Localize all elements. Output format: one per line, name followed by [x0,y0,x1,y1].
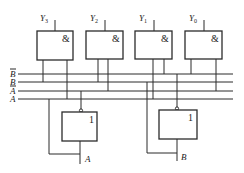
output-subscript: 2 [95,18,98,24]
and-gate-y0: & Y 0 [185,13,222,91]
and-symbol: & [161,33,169,44]
and-symbol: & [62,33,70,44]
input-label-b: B [181,152,187,162]
output-subscript: 0 [194,18,197,24]
inverter-b: 1 B [147,74,197,162]
not-symbol: 1 [188,112,193,123]
not-symbol: 1 [89,114,94,125]
and-gate-y1: & Y 1 [135,13,172,99]
and-symbol: & [211,33,219,44]
decoder-diagram: B B A A & Y 3 & Y 2 & Y 1 & [0,0,244,173]
inverter-a: 1 A [49,91,97,164]
bus-lines [18,74,233,99]
output-subscript: 3 [45,18,48,24]
bus-labels: B B A A [9,69,16,104]
and-symbol: & [112,33,120,44]
and-gate-y3: & Y 3 [37,13,73,99]
and-gate-y2: & Y 2 [86,13,123,91]
input-label-a: A [84,154,91,164]
label-a: A [9,94,16,104]
output-subscript: 1 [144,18,147,24]
